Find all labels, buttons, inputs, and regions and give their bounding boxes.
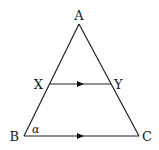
angle-alpha-label: α bbox=[32, 123, 40, 136]
label-c: C bbox=[142, 129, 152, 144]
segment-ab bbox=[24, 24, 79, 136]
parallel-arrow-icon-xy bbox=[77, 81, 84, 87]
parallel-arrow-icon-bc bbox=[77, 133, 84, 139]
triangle-diagram: A X Y B C α bbox=[0, 0, 159, 150]
segment-ac bbox=[79, 24, 139, 136]
label-a: A bbox=[73, 8, 84, 23]
label-y: Y bbox=[113, 77, 123, 92]
label-b: B bbox=[9, 129, 19, 144]
label-x: X bbox=[34, 77, 44, 92]
